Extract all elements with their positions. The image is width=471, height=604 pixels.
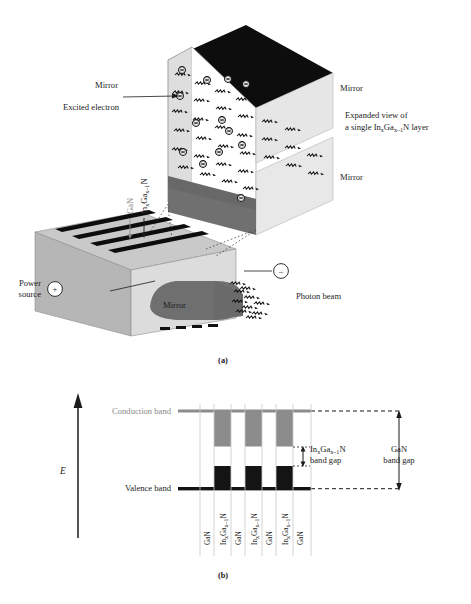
layer-label-3: GaN <box>235 531 243 545</box>
label-photon-beam: Photon beam <box>296 291 341 301</box>
gan-band-gap-annotation: GaN band gap <box>383 410 414 491</box>
energy-axis-label: E <box>59 466 66 476</box>
ingan-gap-b: Ga <box>320 444 330 454</box>
vb-ingan-well-3 <box>276 466 293 490</box>
layer-6-sub2: x–1 <box>285 518 291 527</box>
cb-ingan-well-1 <box>214 410 231 447</box>
layer-label-2: InxGax–1N <box>220 512 229 545</box>
layer-4-n: N <box>251 512 259 518</box>
vb-gan-3 <box>262 487 276 490</box>
terminal-positive-label: + <box>53 284 58 294</box>
expanded-view-text-a: a single In <box>345 122 382 132</box>
expanded-view-text-d: N layer <box>403 122 429 132</box>
expanded-view-block <box>168 25 333 235</box>
cb-ingan-well-2 <box>245 410 262 447</box>
label-stack-gan: GaN <box>125 197 135 214</box>
panel-b: E Conduction band Valence band <box>59 393 415 580</box>
layer-label-4: InxGax–1N <box>251 512 260 545</box>
stack-ingan-sub2: x–1 <box>144 185 150 194</box>
layer-2-n: N <box>220 512 228 518</box>
label-mirror-front: Mirror <box>163 300 186 310</box>
label-ingan-band-gap-line2: band gap <box>310 455 341 465</box>
energy-axis: E <box>59 393 82 538</box>
conduction-band-left-stub <box>178 410 200 413</box>
label-expanded-view-line2: a single InxGax–1N layer <box>345 122 429 133</box>
label-stack-ingan: InxGax–1N <box>139 178 150 214</box>
layer-6-n: N <box>282 512 290 518</box>
label-power-source-line2: source <box>19 289 42 299</box>
label-valence-band: Valence band <box>125 483 172 493</box>
layer-2-sub2: x–1 <box>223 518 229 527</box>
label-power-source-line1: Power <box>19 278 41 288</box>
label-mirror-right-top: Mirror <box>340 83 363 93</box>
label-gan-band-gap-line1: GaN <box>391 444 408 454</box>
layer-label-7: GaN <box>297 531 305 545</box>
vb-gan-4 <box>293 487 311 490</box>
cb-ingan-well-3 <box>276 410 293 447</box>
label-expanded-view-line1: Expanded view of <box>345 110 408 120</box>
label-ingan-band-gap-line1: InxGax–1N <box>310 444 346 455</box>
cb-gan-3 <box>262 410 276 413</box>
figure-svg: + – Mirror Excited electron Mirror Mirro… <box>0 0 471 604</box>
stack-ingan-c: N <box>139 178 149 185</box>
ingan-band-gap-annotation: InxGax–1N band gap <box>293 444 346 467</box>
label-mirror-right-bottom: Mirror <box>340 172 363 182</box>
layer-label-5: GaN <box>266 531 274 545</box>
cb-gan-4 <box>293 410 311 413</box>
vb-gan-1 <box>200 487 214 490</box>
cb-gan-1 <box>200 410 214 413</box>
cb-gan-2 <box>231 410 245 413</box>
layer-4-sub2: x–1 <box>254 518 260 527</box>
panel-label-b: (b) <box>218 571 228 580</box>
vb-ingan-well-1 <box>214 466 231 490</box>
label-mirror-left: Mirror <box>95 80 118 90</box>
figure-root: + – Mirror Excited electron Mirror Mirro… <box>0 0 471 604</box>
panel-a: + – Mirror Excited electron Mirror Mirro… <box>19 25 429 365</box>
vb-gan-2 <box>231 487 245 490</box>
expanded-view-sub-minus1: –1 <box>396 127 403 133</box>
valence-band-left-stub <box>178 487 200 490</box>
label-conduction-band: Conduction band <box>112 406 172 416</box>
layer-label-1: GaN <box>204 531 212 545</box>
energy-axis-arrowhead <box>74 393 83 408</box>
expanded-view-text-b: Ga <box>384 122 394 132</box>
stack-ingan-b: Ga <box>139 194 149 204</box>
label-excited-electron: Excited electron <box>63 102 120 112</box>
label-gan-band-gap-line2: band gap <box>383 455 414 465</box>
panel-label-a: (a) <box>218 356 228 365</box>
layer-label-6: InxGax–1N <box>282 512 291 545</box>
vb-ingan-well-2 <box>245 466 262 490</box>
ingan-gap-c: N <box>339 444 346 454</box>
band-profile <box>200 410 311 491</box>
layer-axis-labels: GaN InxGax–1N GaN InxGax–1N GaN InxGax–1… <box>204 512 305 545</box>
terminal-negative-label: – <box>278 266 284 276</box>
